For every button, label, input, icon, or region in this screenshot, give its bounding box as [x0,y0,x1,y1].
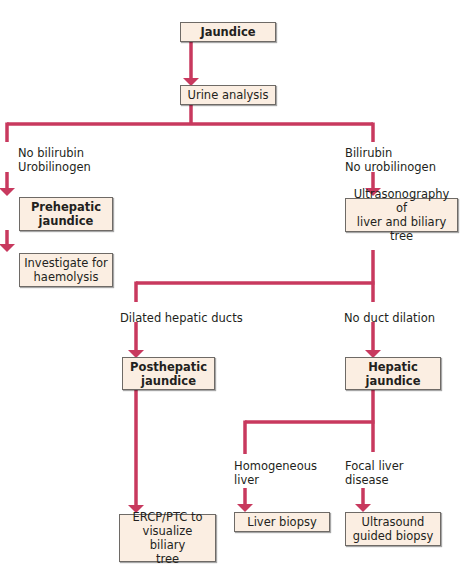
node-label: Prehepatic jaundice [31,200,101,228]
node-prehepatic-jaundice: Prehepatic jaundice [19,197,113,231]
node-label: Ultrasonography of liver and biliary tre… [350,187,453,243]
edge-label-homogeneous-liver: Homogeneous liver [234,459,317,487]
node-posthepatic-jaundice: Posthepatic jaundice [122,357,215,390]
node-label: Liver biopsy [247,515,317,529]
node-ultrasonography: Ultrasonography of liver and biliary tre… [345,198,458,232]
node-label: Ultrasound guided biopsy [353,515,434,543]
node-label: Urine analysis [188,88,269,102]
edge-label-focal-liver-disease: Focal liver disease [345,459,403,487]
node-liver-biopsy: Liver biopsy [234,512,330,532]
node-label: Hepatic jaundice [366,360,421,388]
node-urine-analysis: Urine analysis [180,85,276,105]
edge-label-bilirubin: Bilirubin No urobilinogen [345,146,436,174]
node-label: Posthepatic jaundice [130,360,207,388]
node-jaundice: Jaundice [180,22,276,42]
edge-label-dilated-ducts: Dilated hepatic ducts [120,311,243,325]
node-label: Investigate for haemolysis [24,256,108,284]
node-ultrasound-guided-biopsy: Ultrasound guided biopsy [345,512,441,546]
node-label: Jaundice [200,25,255,39]
node-ercp-ptc: ERCP/PTC to visualize biliary tree [119,514,216,562]
node-label: ERCP/PTC to visualize biliary tree [124,510,211,566]
node-hepatic-jaundice: Hepatic jaundice [345,357,441,390]
edge-label-no-bilirubin: No bilirubin Urobilinogen [18,146,91,174]
node-investigate-haemolysis: Investigate for haemolysis [19,253,113,287]
edge-label-no-duct-dilation: No duct dilation [344,311,435,325]
